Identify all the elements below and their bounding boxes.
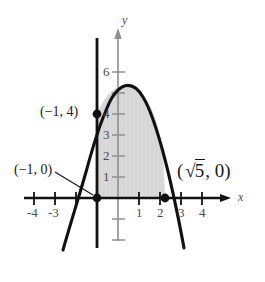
y-tick-label-6: 6 [103, 65, 110, 78]
graph-figure: 6 4 3 2 1 -4 -3 1 2 3 4 y x (−1, 4) (−1,… [0, 0, 265, 282]
point-neg1-0 [93, 194, 102, 203]
y-tick-label-2: 2 [103, 149, 110, 162]
annotation-point-neg1-4: (−1, 4) [40, 105, 78, 119]
parabola-plot [0, 0, 265, 282]
x-tick-label-neg3: -3 [48, 206, 59, 219]
annotation-point-neg1-0: (−1, 0) [14, 163, 52, 177]
x-tick-label-neg4: -4 [27, 206, 38, 219]
radical-icon: 5 [183, 161, 205, 180]
radicand: 5 [195, 159, 206, 181]
x-tick-label-3: 3 [178, 206, 185, 219]
y-tick-label-1: 1 [103, 170, 110, 183]
x-axis-label: x [238, 191, 243, 203]
point-sqrt5-0 [161, 194, 170, 203]
y-tick-label-3: 3 [103, 128, 110, 141]
x-tick-label-2: 2 [157, 206, 164, 219]
annotation-point-sqrt5-0: (5, 0) [177, 161, 231, 180]
y-tick-label-4: 4 [103, 107, 110, 120]
leader-line-neg1-0 [55, 172, 93, 195]
paren-close-zero: , 0) [205, 160, 230, 181]
y-axis-label: y [122, 14, 127, 26]
x-tick-label-4: 4 [199, 206, 206, 219]
point-neg1-4 [93, 110, 102, 119]
x-tick-label-1: 1 [136, 206, 143, 219]
